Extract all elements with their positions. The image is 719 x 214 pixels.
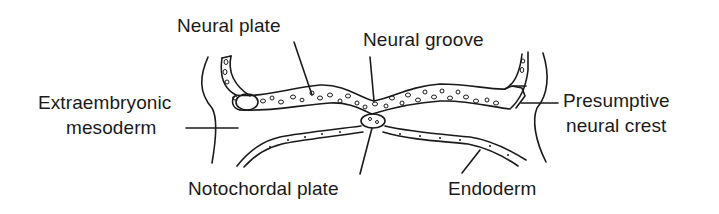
label-mesoderm: mesoderm xyxy=(66,117,157,139)
label-neural-groove: Neural groove xyxy=(363,29,484,51)
endoderm-left-lower xyxy=(244,132,363,167)
label-endoderm: Endoderm xyxy=(448,178,536,200)
endoderm-left-upper xyxy=(237,126,361,166)
endoderm-right-lower xyxy=(383,132,518,166)
leader-notochordal-plate xyxy=(360,128,372,174)
neural-plate-lower-edge xyxy=(230,56,250,96)
label-presumptive: Presumptive xyxy=(563,90,670,112)
label-neural-plate: Neural plate xyxy=(177,15,281,37)
leader-neural-groove xyxy=(370,57,374,101)
leader-endoderm xyxy=(462,150,480,173)
label-extraembryonic: Extraembryonic xyxy=(38,92,171,114)
endoderm-dots xyxy=(269,131,509,156)
neurulation-diagram: Neural plate Neural groove Extraembryoni… xyxy=(0,0,719,214)
notochordal-plate-shape xyxy=(361,114,385,128)
left-large-cell xyxy=(236,94,258,110)
label-notochordal-plate: Notochordal plate xyxy=(188,178,339,200)
right-mesoderm-boundary xyxy=(535,53,547,162)
label-neural-crest: neural crest xyxy=(566,115,666,137)
left-mesoderm-boundary xyxy=(202,57,216,163)
